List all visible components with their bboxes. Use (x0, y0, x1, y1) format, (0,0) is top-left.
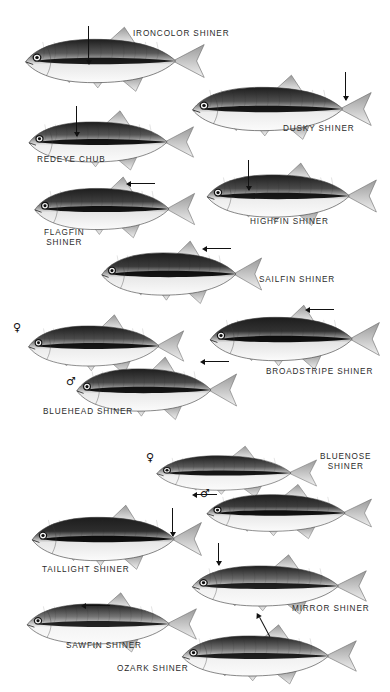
species-label-broadstripe-shiner: BROADSTRIPE SHINER (266, 367, 373, 377)
pointer-sailfin-shiner (207, 248, 231, 249)
pointer-bluenose-shiner-male (197, 494, 217, 495)
species-label-flagfin-shiner: FLAGFIN SHINER (44, 228, 85, 247)
pointer-highfin-shiner (248, 160, 249, 190)
species-label-dusky-shiner: DUSKY SHINER (283, 124, 354, 134)
female-symbol-icon: ♀ (146, 452, 154, 463)
species-label-taillight-shiner: TAILLIGHT SHINER (42, 565, 129, 575)
fish-illustration-bluenose-shiner-male (200, 480, 375, 546)
species-label-bluehead-shiner-male: BLUEHEAD SHINER (43, 407, 133, 417)
pointer-dusky-shiner (345, 72, 346, 100)
pointer-bluehead-shiner-male (205, 361, 229, 362)
species-label-redeye-chub: REDEYE CHUB (37, 155, 106, 165)
pointer-ironcolor-shiner (88, 26, 89, 64)
species-label-sailfin-shiner: SAILFIN SHINER (259, 275, 335, 285)
pointer-taillight-shiner (172, 508, 173, 536)
species-label-highfin-shiner: HIGHFIN SHINER (250, 217, 329, 227)
pointer-redeye-chub (76, 106, 77, 136)
pointer-flagfin-shiner (131, 183, 155, 184)
species-label-sawfin-shiner: SAWFIN SHINER (66, 641, 142, 651)
fish-identification-plate: IRONCOLOR SHINERDUSKY SHINERREDEYE CHUBH… (0, 0, 390, 692)
pointer-sawfin-shiner (86, 605, 110, 606)
species-label-ironcolor-shiner: IRONCOLOR SHINER (133, 29, 229, 39)
species-label-mirror-shiner: MIRROR SHINER (292, 604, 369, 614)
pointer-broadstripe-shiner (310, 309, 334, 310)
fish-illustration-bluehead-shiner-male (70, 352, 240, 428)
species-label-ozark-shiner: OZARK SHINER (117, 664, 189, 674)
fish-illustration-dusky-shiner (185, 70, 375, 148)
pointer-mirror-shiner (218, 543, 219, 565)
male-symbol-icon: ♂ (66, 376, 76, 387)
species-label-bluenose-shiner-female: BLUENOSE SHINER (320, 452, 371, 471)
female-symbol-icon: ♀ (13, 322, 21, 333)
fish-illustration-redeye-chub (22, 106, 197, 178)
